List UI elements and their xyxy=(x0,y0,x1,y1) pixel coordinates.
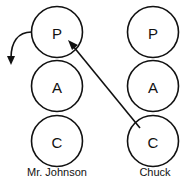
mr-johnson-child-letter: C xyxy=(52,134,63,151)
ego-states-mr-johnson: P A C xyxy=(32,7,83,167)
mr-johnson-adult-letter: A xyxy=(52,79,62,96)
chuck-adult-letter: A xyxy=(148,79,158,96)
chuck-child-letter: C xyxy=(148,134,159,151)
transaction-arrow-child-to-parent xyxy=(68,40,140,128)
mr-johnson-label: Mr. Johnson xyxy=(27,166,87,178)
mr-johnson-parent-letter: P xyxy=(52,25,62,42)
transaction-diagram: P A C P A C xyxy=(0,0,186,182)
ego-states-chuck: P A C xyxy=(128,7,179,167)
curved-arrow-shaft xyxy=(11,32,32,58)
deflection-arrow xyxy=(7,32,32,65)
curved-arrowhead-icon xyxy=(7,56,15,65)
chuck-parent-letter: P xyxy=(148,25,158,42)
chuck-label: Chuck xyxy=(139,166,170,178)
